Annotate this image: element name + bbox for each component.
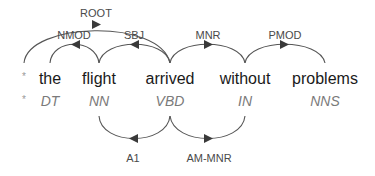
arc-root: ROOT xyxy=(24,7,170,63)
pos-tag: VBD xyxy=(156,93,185,109)
arrowhead-icon xyxy=(204,40,213,49)
token-word: problems xyxy=(292,70,358,87)
pos-tag: NNS xyxy=(310,93,340,109)
dependency-diagram: ROOT NMOD SBJ MNR PMOD * * the xyxy=(0,0,375,176)
arc-label-pmod: PMOD xyxy=(269,29,302,41)
semantic-arcs: A1 AM-MNR xyxy=(99,116,245,164)
pos-tag: NN xyxy=(89,93,110,109)
arrowhead-icon xyxy=(71,40,80,49)
arc-label-mnr: MNR xyxy=(195,29,220,41)
token-word: the xyxy=(39,70,61,87)
arrowhead-icon xyxy=(280,40,289,49)
arc-root-path xyxy=(24,31,170,63)
arc-pmod-path xyxy=(245,44,325,63)
arc-label-nmod: NMOD xyxy=(57,29,91,41)
arc-label-a1: A1 xyxy=(126,152,139,164)
token-word: flight xyxy=(82,70,116,87)
token-row: the flight arrived without problems xyxy=(39,70,358,87)
arc-a1-path xyxy=(99,116,170,139)
root-marker-word: * xyxy=(22,71,26,82)
arc-am-mnr: AM-MNR xyxy=(170,116,245,164)
root-marker-pos: * xyxy=(22,94,26,105)
arc-pmod: PMOD xyxy=(245,29,325,63)
arc-label-am-mnr: AM-MNR xyxy=(186,152,231,164)
arc-a1: A1 xyxy=(99,116,170,164)
arrowhead-icon xyxy=(129,134,138,143)
arc-nmod: NMOD xyxy=(50,29,99,63)
arrowhead-icon xyxy=(130,40,139,49)
pos-tag: IN xyxy=(238,93,253,109)
token-word: without xyxy=(219,70,271,87)
token-word: arrived xyxy=(146,70,195,87)
syntactic-arcs: ROOT NMOD SBJ MNR PMOD xyxy=(24,7,325,63)
arc-sbj: SBJ xyxy=(99,29,170,63)
pos-row: DT NN VBD IN NNS xyxy=(41,93,341,109)
arc-am-mnr-path xyxy=(170,116,245,139)
arrowhead-icon xyxy=(92,20,101,29)
arrowhead-icon xyxy=(204,134,213,143)
pos-tag: DT xyxy=(41,93,61,109)
arc-nmod-path xyxy=(50,44,99,63)
arc-mnr: MNR xyxy=(170,29,245,63)
arc-label-sbj: SBJ xyxy=(124,29,144,41)
arc-label-root: ROOT xyxy=(80,7,112,19)
